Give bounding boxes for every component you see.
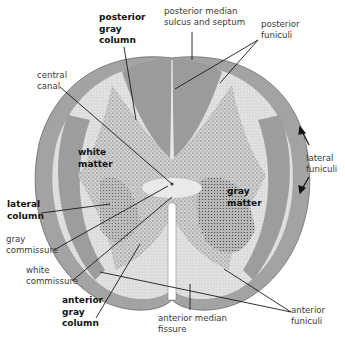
central-commissure [142,178,202,198]
anterior-median-fissure-shape [168,203,176,301]
label-lateral-column: lateral column [7,199,44,222]
label-white-commissure: white commissure [26,265,78,287]
label-anterior-funiculi: anterior funiculi [291,305,325,327]
label-anterior-median-fissure: anterior median fissure [158,313,227,335]
label-posterior-gray-column: posterior gray column [99,12,146,47]
label-anterior-gray-column: anterior gray column [62,295,103,330]
label-lateral-funiculi: lateral funiculi [306,153,337,175]
label-gray-commissure: gray commissure [6,234,58,256]
label-white-matter: white matter [78,147,113,170]
label-central-canal: central canal [37,70,67,92]
label-posterior-funiculi: posterior funiculi [261,19,300,41]
spinal-cord-cross-section [0,0,345,338]
label-gray-matter: gray matter [227,186,262,209]
label-posterior-median-sulcus: posterior median sulcus and septum [164,6,245,28]
